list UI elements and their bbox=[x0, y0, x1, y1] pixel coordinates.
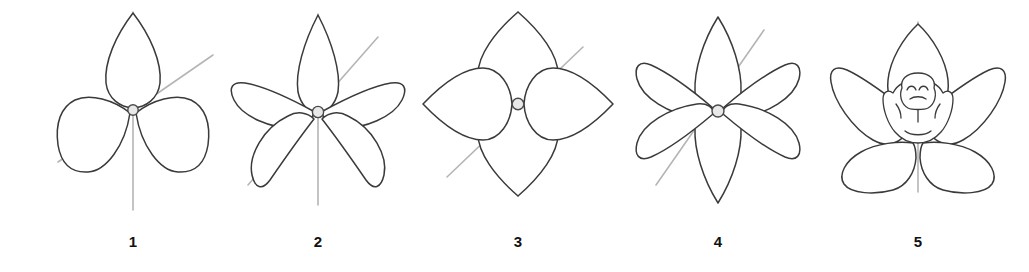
panel-label: 2 bbox=[215, 232, 421, 252]
petal bbox=[322, 113, 385, 187]
petal bbox=[251, 113, 314, 187]
column-outline bbox=[901, 73, 936, 110]
flower-panel-4: 4 bbox=[615, 0, 821, 272]
flower-panel-2: 2 bbox=[215, 0, 421, 272]
petal bbox=[695, 17, 741, 110]
panel-label: 1 bbox=[30, 232, 236, 252]
flower-center bbox=[312, 106, 323, 117]
petal bbox=[136, 97, 209, 172]
flower-four-petal-drawing bbox=[415, 0, 621, 230]
petal bbox=[423, 68, 512, 140]
flower-orchid-drawing bbox=[815, 0, 1021, 230]
petal bbox=[57, 97, 130, 172]
flower-panel-5: 5 bbox=[815, 0, 1021, 272]
flower-center bbox=[512, 98, 524, 110]
panel-label: 3 bbox=[415, 232, 621, 252]
panel-label: 4 bbox=[615, 232, 821, 252]
petal bbox=[524, 68, 613, 140]
flower-three-petal-drawing bbox=[30, 0, 236, 230]
petal bbox=[920, 142, 994, 193]
flower-panel-3: 3 bbox=[415, 0, 621, 272]
flower-six-petal-drawing bbox=[615, 0, 821, 230]
panel-label: 5 bbox=[815, 232, 1021, 252]
flower-five-petal-drawing bbox=[215, 0, 421, 230]
petal bbox=[297, 15, 338, 114]
flower-panel-1: 1 bbox=[30, 0, 236, 272]
petal bbox=[106, 13, 160, 108]
flower-symmetry-figure: 1 2 bbox=[0, 0, 1029, 272]
petal bbox=[842, 142, 916, 193]
flower-center bbox=[712, 105, 724, 117]
flower-center bbox=[128, 105, 138, 115]
